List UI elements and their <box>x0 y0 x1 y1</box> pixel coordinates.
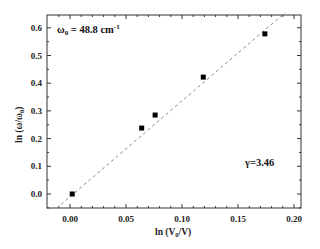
axis-ticks <box>47 15 301 208</box>
y-tick-label: 0.0 <box>31 189 43 199</box>
y-tick-label: 0.6 <box>31 23 43 33</box>
x-tick-label: 0.20 <box>286 214 302 224</box>
x-tick-label: 0.15 <box>230 214 246 224</box>
gamma-annotation: γ=3.46 <box>244 157 274 168</box>
x-axis-label: ln (V0/V) <box>155 227 191 238</box>
data-point <box>139 126 144 131</box>
x-tick-label: 0.10 <box>174 214 190 224</box>
data-point <box>153 113 158 118</box>
x-tick-labels: 0.000.050.100.150.20 <box>62 214 302 224</box>
scatter-chart: 0.000.050.100.150.20 0.00.10.20.30.40.50… <box>0 0 320 249</box>
x-tick-label: 0.00 <box>62 214 78 224</box>
y-tick-labels: 0.00.10.20.30.40.50.6 <box>31 23 43 199</box>
data-point <box>201 75 206 80</box>
y-tick-label: 0.1 <box>31 161 43 171</box>
plot-frame <box>47 15 301 208</box>
y-tick-label: 0.5 <box>31 51 43 61</box>
y-tick-label: 0.4 <box>31 78 43 88</box>
data-point <box>70 192 75 197</box>
y-axis-label: ln (ω/ω0) <box>14 107 25 143</box>
fit-line <box>57 13 285 209</box>
x-tick-label: 0.05 <box>118 214 134 224</box>
data-point <box>262 31 267 36</box>
y-tick-label: 0.2 <box>31 134 43 144</box>
y-tick-label: 0.3 <box>31 106 43 116</box>
omega-annotation: ω0 = 48.8 cm-1 <box>57 23 120 37</box>
